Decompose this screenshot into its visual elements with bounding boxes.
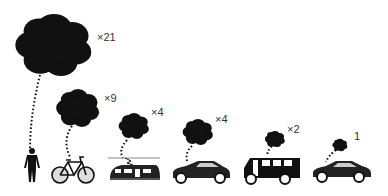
cloud-icon [56,89,99,127]
emissions-diagram: ×21 ×9 ×4 ×4 ×2 1 [0,0,388,196]
shared-car-icon [313,161,371,182]
multiplier-label-shared-car: 1 [354,131,360,142]
diagram-graphics [0,0,388,196]
bicycle-icon [52,157,94,183]
cloud-icon [265,131,285,147]
multiplier-label-car: ×4 [215,114,228,125]
cloud-icon [15,14,91,76]
cloud-icon [183,119,213,145]
multiplier-label-bicycle: ×9 [104,93,117,104]
pedestrian-icon [24,148,40,182]
train-icon [108,158,160,180]
multiplier-label-train: ×4 [151,107,164,118]
multiplier-label-bus: ×2 [287,124,300,135]
bus-icon [244,158,300,184]
cloud-icon [332,139,347,151]
multiplier-label-pedestrian: ×21 [97,32,116,43]
cloud-icon [119,113,149,139]
car-icon [173,161,230,183]
